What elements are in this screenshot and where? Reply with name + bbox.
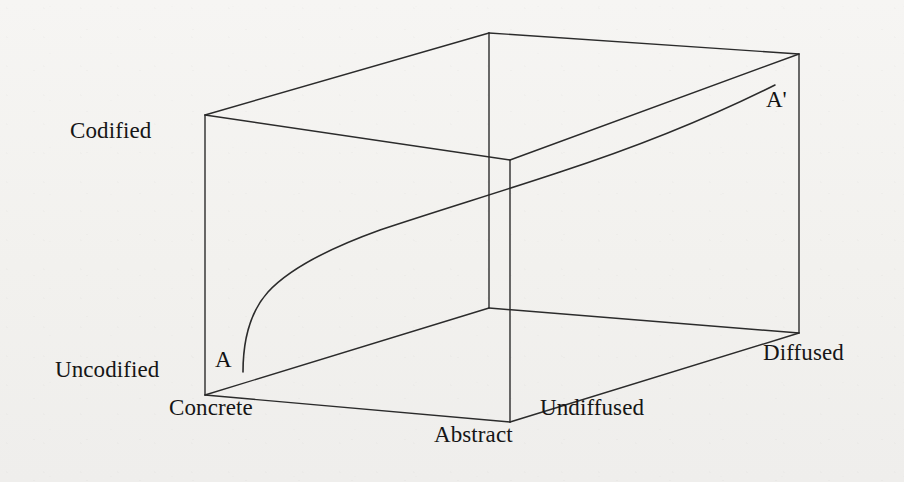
- cube-front-face: [205, 115, 510, 422]
- axis-label-diffused: Diffused: [763, 341, 844, 364]
- edge-depth-top-left: [205, 33, 489, 115]
- cube-wireframe: [0, 0, 904, 482]
- edge-back-top: [489, 33, 799, 54]
- axis-label-concrete: Concrete: [169, 396, 253, 419]
- axis-label-codified: Codified: [70, 119, 151, 142]
- edge-depth-bottom-left: [205, 308, 489, 395]
- axis-label-undiffused: Undiffused: [540, 396, 644, 419]
- trajectory-curve-a-to-a-prime: [243, 85, 775, 372]
- cube-depth-edges: [205, 33, 799, 422]
- trajectory-end-label-a-prime: A': [766, 88, 787, 111]
- figure-canvas: Codified Uncodified Concrete Abstract Un…: [0, 0, 904, 482]
- trajectory-start-label-a: A: [215, 348, 232, 371]
- edge-back-bottom: [489, 308, 799, 333]
- edge-depth-top-right: [510, 54, 799, 160]
- axis-label-abstract: Abstract: [434, 423, 513, 446]
- axis-label-uncodified: Uncodified: [55, 358, 159, 381]
- cube-back-face: [489, 33, 799, 333]
- edge-front-top: [205, 115, 510, 160]
